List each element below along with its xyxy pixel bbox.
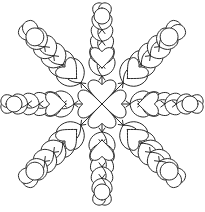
- plume-tip-cap: [94, 8, 110, 24]
- quilting-motif-diagram: Feathered Heart Quilting Motif: [0, 0, 205, 212]
- plume-tip-cap: [94, 184, 110, 200]
- plume-tip-cap: [182, 96, 198, 112]
- plume-tip-cap: [6, 96, 22, 112]
- center-heart-pinwheel: [78, 80, 126, 128]
